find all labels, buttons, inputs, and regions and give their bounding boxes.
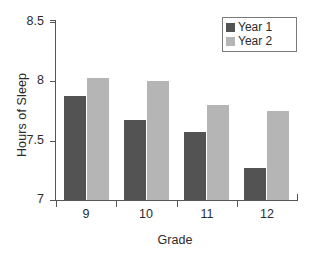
x-axis-tick-label: 10 <box>116 207 176 221</box>
bar-12-year-1[interactable] <box>244 168 266 200</box>
legend-item[interactable]: Year 2 <box>226 34 293 48</box>
bar-10-year-2[interactable] <box>147 81 169 200</box>
legend-swatch-year-2 <box>226 37 235 46</box>
bar-10-year-1[interactable] <box>124 120 146 200</box>
y-axis-tick-label: 7.5 <box>0 134 44 147</box>
y-axis-tick-label: 8.5 <box>0 15 44 28</box>
bar-11-year-2[interactable] <box>207 105 229 200</box>
x-axis-title: Grade <box>52 233 298 247</box>
x-axis-end-cap <box>297 194 298 201</box>
bar-9-year-2[interactable] <box>87 78 109 200</box>
y-axis-tick-label: 7 <box>0 193 44 206</box>
x-axis-tick-label: 12 <box>237 207 297 221</box>
legend-label-year-1: Year 1 <box>238 21 272 33</box>
y-axis-title: Hours of Sleep <box>15 35 29 195</box>
bar-12-year-2[interactable] <box>267 111 289 200</box>
x-axis-tick-label: 9 <box>56 207 116 221</box>
bar-9-year-1[interactable] <box>64 96 86 200</box>
x-axis-tick-label: 11 <box>177 207 237 221</box>
legend: Year 1 Year 2 <box>222 17 297 52</box>
bar-11-year-1[interactable] <box>184 132 206 200</box>
y-axis-top-cap <box>50 20 56 21</box>
legend-item[interactable]: Year 1 <box>226 20 293 34</box>
chart-container: Hours of Sleep 77.588.5 9101112 Grade Ye… <box>0 0 313 259</box>
y-axis-tick-label: 8 <box>0 74 44 87</box>
legend-swatch-year-1 <box>226 23 235 32</box>
legend-label-year-2: Year 2 <box>238 35 272 47</box>
